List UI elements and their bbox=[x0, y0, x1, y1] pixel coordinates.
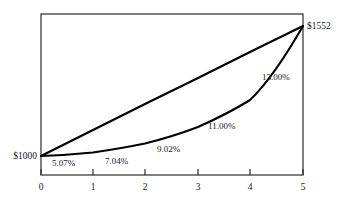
rate-annotation-4: 13.00% bbox=[262, 72, 290, 82]
growth-comparison-chart: 0 1 2 3 4 5 $1000 $1552 5.07% 7.04% 9.02… bbox=[0, 0, 342, 209]
rate-annotation-3: 11.00% bbox=[208, 121, 236, 131]
rate-annotation-1: 7.04% bbox=[105, 156, 129, 166]
chart-canvas: 0 1 2 3 4 5 $1000 $1552 5.07% 7.04% 9.02… bbox=[0, 0, 342, 209]
x-tick-label-0: 0 bbox=[39, 182, 44, 192]
rate-annotation-2: 9.02% bbox=[157, 144, 181, 154]
end-value-label: $1552 bbox=[307, 21, 331, 31]
x-tick-label-5: 5 bbox=[301, 182, 306, 192]
start-value-label: $1000 bbox=[13, 151, 37, 161]
x-tick-label-1: 1 bbox=[91, 182, 96, 192]
x-tick-label-4: 4 bbox=[248, 182, 253, 192]
x-tick-label-3: 3 bbox=[196, 182, 201, 192]
x-tick-label-2: 2 bbox=[143, 182, 148, 192]
rate-annotation-0: 5.07% bbox=[52, 158, 76, 168]
x-axis-ticks bbox=[41, 169, 303, 175]
